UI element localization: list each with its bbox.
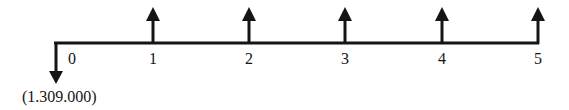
initial-outflow-label: (1.309.000) [22,89,97,105]
tick-label-4: 4 [427,51,457,67]
arrowhead-up-icon [242,7,256,21]
cash-flow-arrow-period-1 [146,7,160,44]
tick-label-5: 5 [523,51,553,67]
arrowhead-down-icon [49,71,63,84]
cash-flow-arrow-period-4 [435,7,449,44]
arrowhead-up-icon [146,7,160,21]
arrowhead-up-icon [531,7,545,21]
tick-label-2: 2 [234,51,264,67]
cash-flow-arrow-period-5 [531,7,545,44]
cash-flow-arrow-period-3 [338,7,352,44]
tick-label-1: 1 [138,51,168,67]
arrowhead-up-icon [338,7,352,21]
cash-flow-arrow-period-2 [242,7,256,44]
arrowhead-up-icon [435,7,449,21]
tick-label-3: 3 [330,51,360,67]
cash-flow-timeline-figure: 0 1 2 3 4 5 (1.309.000) [0,0,569,110]
tick-label-0: 0 [57,51,87,67]
